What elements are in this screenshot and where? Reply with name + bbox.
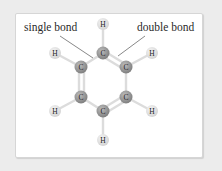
hydrogen-symbol: H [52, 49, 58, 58]
carbon-symbol: C [78, 93, 83, 102]
carbon-symbol: C [78, 63, 83, 72]
hydrogen-symbol: H [149, 49, 155, 58]
carbon-symbol: C [100, 107, 105, 116]
double-bond-label: double bond [137, 21, 194, 33]
hydrogen-symbol: H [100, 136, 106, 145]
single-bond-pointer [60, 36, 93, 58]
carbon-symbol: C [123, 93, 128, 102]
hydrogen-symbol: H [100, 20, 106, 29]
double-bond-pointer [118, 36, 145, 56]
hydrogen-symbol: H [149, 107, 155, 116]
single-bond-label: single bond [24, 21, 77, 33]
hydrogen-symbol: H [52, 107, 58, 116]
carbon-symbol: C [123, 63, 128, 72]
carbon-symbol: C [100, 49, 105, 58]
